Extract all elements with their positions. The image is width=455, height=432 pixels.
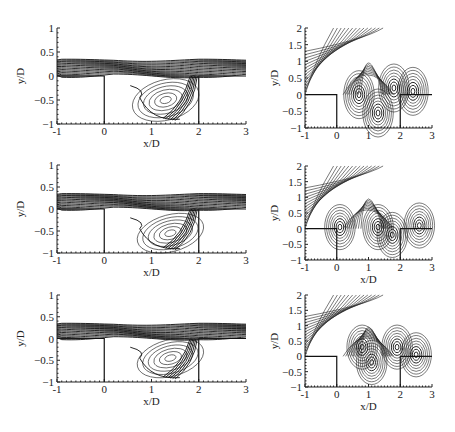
x-tick-label: 2 — [196, 125, 202, 137]
contour-lines — [305, 28, 428, 137]
contour-lines — [305, 295, 431, 385]
y-tick-label: 0 — [49, 70, 55, 82]
contour-lines — [57, 323, 246, 384]
x-tick-label: 2 — [398, 261, 404, 273]
panel-bottom-right: -10123−1−0.500.511.52x/Dy/D — [268, 289, 435, 412]
x-axis-label: x/D — [360, 400, 377, 412]
y-tick-label: −1 — [42, 247, 54, 259]
y-tick-label: 1.5 — [288, 39, 302, 51]
y-axis-label: y/D — [268, 70, 280, 87]
cavity-upstream-wall — [305, 229, 337, 260]
x-tick-label: 1 — [366, 129, 372, 141]
contour-lines — [305, 166, 435, 257]
cavity-upstream-wall — [305, 95, 337, 128]
y-axis-label: y/D — [268, 333, 280, 350]
y-axis-label: y/D — [14, 330, 26, 347]
y-tick-label: 0.5 — [40, 311, 54, 323]
cavity-downstream-wall — [199, 209, 246, 253]
y-tick-label: 0 — [297, 89, 303, 101]
x-tick-label: 1 — [149, 125, 155, 137]
cavity-upstream-wall — [57, 76, 104, 124]
y-tick-label: −0.5 — [282, 105, 302, 117]
x-tick-label: 3 — [243, 125, 249, 137]
x-tick-label: 3 — [243, 254, 249, 266]
contour-lines — [57, 59, 246, 128]
y-tick-label: −0.5 — [34, 225, 54, 237]
y-tick-label: −0.5 — [282, 238, 302, 250]
x-tick-label: 0 — [102, 254, 108, 266]
y-tick-label: 1.5 — [288, 176, 302, 188]
cavity-upstream-wall — [305, 356, 337, 387]
x-tick-label: 0 — [102, 383, 108, 395]
y-axis-label: y/D — [268, 205, 280, 222]
x-tick-label: 3 — [429, 261, 435, 273]
x-tick-label: 0 — [102, 125, 108, 137]
y-tick-label: 1 — [49, 289, 55, 301]
x-tick-label: 2 — [398, 129, 404, 141]
y-tick-label: 1 — [49, 22, 55, 34]
x-axis-label: x/D — [360, 273, 377, 285]
y-tick-label: 2 — [297, 160, 303, 172]
y-tick-label: 1 — [297, 55, 303, 67]
y-tick-label: −0.5 — [282, 366, 302, 378]
x-axis-label: x/D — [143, 266, 160, 278]
cavity-upstream-wall — [57, 209, 104, 253]
y-tick-label: −1 — [290, 381, 302, 393]
y-axis-label: y/D — [14, 201, 26, 218]
panel-top-left: -10123−1−0.500.51x/Dy/D — [14, 22, 249, 149]
panel-middle-left: -10123−1−0.500.51x/Dy/D — [14, 159, 249, 278]
y-tick-label: 1 — [49, 159, 55, 171]
x-axis-label: x/D — [143, 395, 160, 407]
x-axis-label: x/D — [143, 137, 160, 149]
y-tick-label: 0 — [49, 333, 55, 345]
y-tick-label: −0.5 — [34, 94, 54, 106]
y-tick-label: 0.5 — [40, 181, 54, 193]
cavity-downstream-wall — [400, 356, 432, 387]
cavity-downstream-wall — [199, 339, 246, 383]
x-tick-label: 1 — [366, 261, 372, 273]
cavity-upstream-wall — [57, 339, 104, 383]
y-tick-label: 0 — [297, 223, 303, 235]
y-tick-label: 1.5 — [288, 304, 302, 316]
x-tick-label: 3 — [429, 388, 435, 400]
x-tick-label: 0 — [334, 261, 340, 273]
x-tick-label: 2 — [398, 388, 404, 400]
y-tick-label: 0.5 — [288, 72, 302, 84]
y-axis-label: y/D — [14, 68, 26, 85]
y-tick-label: 0 — [49, 203, 55, 215]
y-tick-label: 2 — [297, 22, 303, 34]
y-tick-label: −1 — [290, 254, 302, 266]
x-tick-label: 0 — [334, 388, 340, 400]
y-tick-label: 0.5 — [288, 207, 302, 219]
x-tick-label: 3 — [243, 383, 249, 395]
panel-bottom-left: -10123−1−0.500.51x/Dy/D — [14, 289, 249, 407]
y-tick-label: 0.5 — [40, 46, 54, 58]
x-tick-label: 2 — [196, 254, 202, 266]
panel-middle-right: -10123−1−0.500.511.52x/Dy/D — [268, 160, 435, 285]
cavity-downstream-wall — [199, 76, 246, 124]
x-tick-label: 1 — [366, 388, 372, 400]
y-tick-label: −0.5 — [34, 354, 54, 366]
y-tick-label: 1 — [297, 191, 303, 203]
x-tick-label: 2 — [196, 383, 202, 395]
y-tick-label: −1 — [42, 118, 54, 130]
x-tick-label: 0 — [334, 129, 340, 141]
x-tick-label: 1 — [149, 254, 155, 266]
y-tick-label: 0.5 — [288, 335, 302, 347]
contour-lines — [57, 194, 246, 260]
x-tick-label: 3 — [429, 129, 435, 141]
x-tick-label: 1 — [149, 383, 155, 395]
panel-top-right: -10123−1−0.500.511.52y/D — [268, 22, 435, 141]
figure-canvas: -10123−1−0.500.51x/Dy/D-10123−1−0.500.51… — [0, 0, 455, 432]
y-tick-label: 0 — [297, 350, 303, 362]
y-tick-label: −1 — [42, 376, 54, 388]
y-tick-label: 1 — [297, 320, 303, 332]
y-tick-label: 2 — [297, 289, 303, 301]
y-tick-label: −1 — [290, 122, 302, 134]
